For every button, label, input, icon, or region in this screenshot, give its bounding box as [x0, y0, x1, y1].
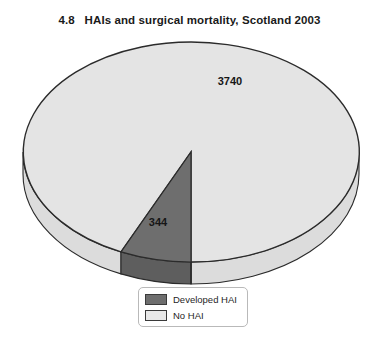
slice-value-label-no-hai: 3740: [218, 75, 242, 87]
legend-swatch-developed-hai: [145, 294, 167, 305]
legend-label-developed-hai: Developed HAI: [173, 294, 237, 305]
chart-legend: Developed HAI No HAI: [138, 287, 248, 327]
chart-page: 4.8 HAIs and surgical mortality, Scotlan…: [0, 0, 379, 359]
slice-value-label-developed-hai: 344: [149, 216, 168, 228]
legend-label-no-hai: No HAI: [173, 310, 204, 321]
legend-item-no-hai[interactable]: No HAI: [145, 308, 242, 323]
legend-item-developed-hai[interactable]: Developed HAI: [145, 292, 242, 307]
legend-swatch-no-hai: [145, 310, 167, 321]
